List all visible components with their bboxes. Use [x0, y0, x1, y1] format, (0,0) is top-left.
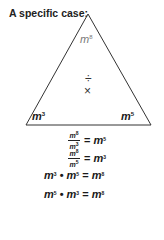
a-base: m	[44, 188, 54, 200]
den-exp: 5	[76, 159, 79, 165]
left-base: m	[32, 110, 42, 122]
rhs-exp: 8	[101, 171, 104, 177]
rhs-base: m	[92, 169, 102, 181]
num-exp: 8	[76, 130, 79, 136]
rhs-exp: 5	[103, 136, 106, 142]
a-base: m	[44, 169, 54, 181]
b-exp: 3	[76, 190, 79, 196]
top-exp: 8	[89, 34, 92, 40]
num-exp: 8	[76, 148, 79, 154]
equals: =	[84, 134, 90, 146]
fraction: m8 m5	[68, 148, 80, 168]
den-exp: 3	[76, 141, 79, 147]
b-base: m	[67, 169, 77, 181]
equals: =	[82, 188, 88, 200]
equation-1: m8 m3 = m5	[68, 130, 106, 150]
dot-operator: •	[60, 188, 64, 200]
rhs-base: m	[92, 188, 102, 200]
a-exp: 5	[54, 190, 57, 196]
b-exp: 5	[76, 171, 79, 177]
triangle-right-label: m5	[121, 110, 134, 122]
equals: =	[84, 152, 90, 164]
rhs-base: m	[94, 134, 104, 146]
equation-3: m3 • m5 = m8	[44, 169, 104, 181]
dot-operator: •	[60, 169, 64, 181]
rhs-exp: 3	[103, 154, 106, 160]
right-base: m	[121, 110, 131, 122]
rhs-exp: 8	[101, 190, 104, 196]
fraction: m8 m3	[68, 130, 80, 150]
rhs: = m5	[84, 134, 106, 146]
a-exp: 3	[54, 171, 57, 177]
equals: =	[82, 169, 88, 181]
equation-2: m8 m5 = m3	[68, 148, 106, 168]
triangle-top-label: m8	[80, 33, 93, 45]
equation-4: m5 • m3 = m8	[44, 188, 104, 200]
right-exp: 5	[131, 111, 134, 117]
multiply-icon: ×	[84, 84, 91, 98]
left-exp: 3	[42, 111, 45, 117]
triangle-left-label: m3	[32, 110, 45, 122]
top-base: m	[80, 33, 89, 45]
rhs-base: m	[94, 152, 104, 164]
b-base: m	[67, 188, 77, 200]
rhs: = m3	[84, 152, 106, 164]
